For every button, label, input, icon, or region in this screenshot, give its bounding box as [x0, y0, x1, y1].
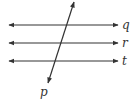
transversal-p-label: p [40, 85, 48, 99]
line-r: r [9, 36, 129, 50]
line-t: t [9, 54, 127, 68]
transversal-p: p [40, 2, 74, 99]
parallel-lines-diagram: q r t p [0, 0, 133, 102]
line-t-label: t [122, 54, 127, 68]
line-q-label: q [122, 18, 130, 32]
line-q: q [9, 18, 130, 32]
line-r-label: r [122, 36, 129, 50]
